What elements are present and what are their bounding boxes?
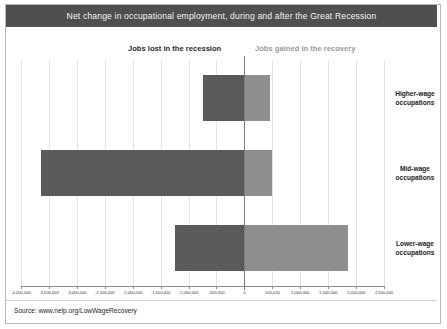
axis-tick xyxy=(189,286,190,289)
plot-area xyxy=(21,60,384,286)
axis-tick-label: 1,500,000 xyxy=(319,290,337,295)
axis-tick xyxy=(300,286,301,289)
bar-loss xyxy=(203,75,245,121)
chart-screenshot: Net change in occupational employment, d… xyxy=(0,0,447,329)
bar-loss xyxy=(41,150,245,196)
chart-title-band: Net change in occupational employment, d… xyxy=(6,5,437,27)
axis-tick-label: -3,500,000 xyxy=(39,290,59,295)
category-label-line: occupations xyxy=(386,248,444,257)
axis-tick-label: 500,000 xyxy=(265,290,280,295)
zero-axis-line xyxy=(244,56,245,290)
bar-gain xyxy=(244,75,269,121)
category-label: Higher-wageoccupations xyxy=(386,89,444,107)
axis-tick-label: -3,000,000 xyxy=(67,290,87,295)
axis-tick xyxy=(77,286,78,289)
axis-tick-label: -2,000,000 xyxy=(123,290,143,295)
axis-tick xyxy=(105,286,106,289)
axis-tick-label: -4,000,000 xyxy=(11,290,31,295)
axis-tick xyxy=(328,286,329,289)
header-jobs-lost: Jobs lost in the recession xyxy=(128,44,221,53)
axis-tick xyxy=(133,286,134,289)
axis-tick-label: 2,500,000 xyxy=(375,290,393,295)
axis-tick xyxy=(49,286,50,289)
axis-tick-label: -1,000,000 xyxy=(179,290,199,295)
category-label: Mid-wageoccupations xyxy=(386,164,444,182)
category-label-line: Mid-wage xyxy=(386,164,444,173)
source-divider xyxy=(6,300,437,301)
bar-gain xyxy=(244,150,272,196)
header-jobs-gained: Jobs gained in the recovery xyxy=(255,44,355,53)
chart-title: Net change in occupational employment, d… xyxy=(67,11,377,21)
x-axis-line xyxy=(21,286,384,287)
axis-tick-label: -1,500,000 xyxy=(151,290,171,295)
category-label-line: Lower-wage xyxy=(386,239,444,248)
axis-tick xyxy=(21,286,22,289)
gridline xyxy=(356,60,357,286)
category-label-line: occupations xyxy=(386,98,444,107)
axis-tick-label: -500,000 xyxy=(208,290,224,295)
category-label: Lower-wageoccupations xyxy=(386,239,444,257)
axis-tick-label: -2,500,000 xyxy=(95,290,115,295)
axis-tick-label: 1,000,000 xyxy=(291,290,309,295)
category-label-line: Higher-wage xyxy=(386,89,444,98)
axis-tick xyxy=(272,286,273,289)
axis-tick-label: 2,000,000 xyxy=(347,290,365,295)
axis-tick xyxy=(216,286,217,289)
axis-tick xyxy=(384,286,385,289)
source-note: Source: www.nelp.org/LowWageRecovery xyxy=(14,307,137,314)
axis-tick xyxy=(356,286,357,289)
bar-gain xyxy=(244,225,347,271)
gridline xyxy=(21,60,22,286)
axis-tick-label: 0 xyxy=(243,290,245,295)
gridline xyxy=(384,60,385,286)
axis-tick xyxy=(161,286,162,289)
category-label-line: occupations xyxy=(386,173,444,182)
bar-loss xyxy=(175,225,245,271)
